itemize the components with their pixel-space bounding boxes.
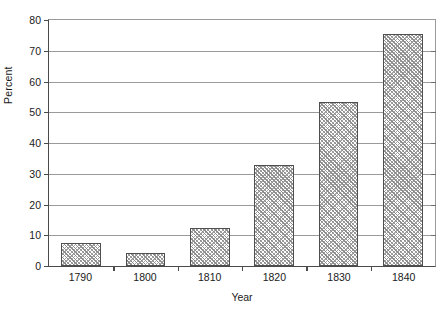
x-axis-separator [178, 266, 179, 271]
bar-1790[interactable] [61, 243, 101, 266]
bar-slot [371, 20, 435, 266]
x-axis-separator [242, 266, 243, 271]
y-axis-tick-label: 80 [29, 15, 41, 26]
bar-slot [49, 20, 113, 266]
y-axis-tick [44, 266, 49, 267]
y-axis-tick-label: 0 [35, 261, 41, 272]
x-axis-separator [371, 266, 372, 271]
x-axis-labels-group: 179018001810182018301840 [48, 272, 436, 283]
bar-slot [242, 20, 306, 266]
bar-1830[interactable] [319, 102, 359, 267]
x-axis-tick-label-1790: 1790 [48, 272, 113, 283]
plot-area: 01020304050607080 [48, 19, 436, 267]
y-axis-tick-label: 50 [29, 107, 41, 118]
y-axis-tick-label: 10 [29, 230, 41, 241]
bar-1810[interactable] [190, 228, 230, 266]
bar-slot [113, 20, 177, 266]
x-axis-tick-label-1800: 1800 [113, 272, 178, 283]
x-axis-title: Year [48, 291, 436, 303]
y-axis-tick-label: 30 [29, 169, 41, 180]
x-axis-tick-label-1840: 1840 [371, 272, 436, 283]
y-axis-tick-label: 60 [29, 76, 41, 87]
bar-1840[interactable] [383, 34, 423, 266]
y-axis-tick-label: 70 [29, 46, 41, 57]
y-axis-tick-label: 20 [29, 199, 41, 210]
x-axis-tick-label-1810: 1810 [177, 272, 242, 283]
bar-slot [178, 20, 242, 266]
bar-slot [306, 20, 370, 266]
y-axis-tick-label: 40 [29, 138, 41, 149]
bar-1820[interactable] [254, 165, 294, 266]
x-axis-tick-label-1820: 1820 [242, 272, 307, 283]
bars-group [49, 20, 435, 266]
x-axis-tick-label-1830: 1830 [307, 272, 372, 283]
bar-1800[interactable] [126, 253, 166, 266]
x-axis-separator [113, 266, 114, 271]
y-axis-title: Percent [2, 90, 14, 104]
x-axis-separator [306, 266, 307, 271]
bar-chart-figure: Percent 01020304050607080 17901800181018… [0, 0, 446, 310]
